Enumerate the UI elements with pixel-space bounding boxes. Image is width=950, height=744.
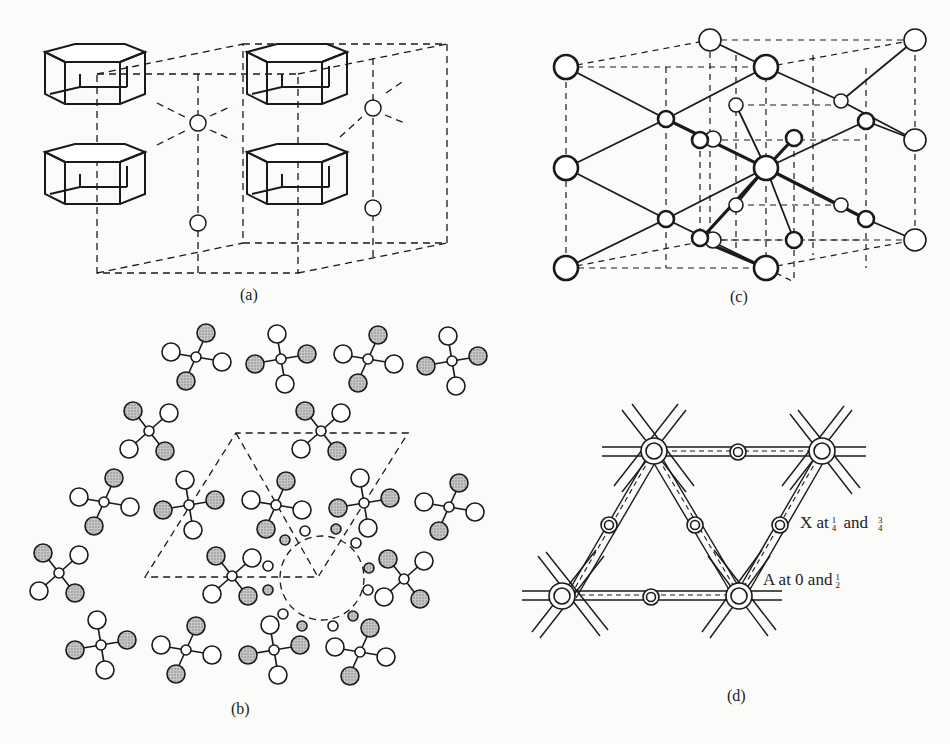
panel-a-label: (a) [240,286,258,304]
a-annotation-prefix: A at 0 and [763,570,832,589]
x-position-annotation: X at14 and34 [800,513,886,533]
x-annotation-and: and [844,513,869,532]
unit-cell-dashed-c [566,40,915,282]
panel-a-diagram [45,44,447,273]
panel-b-label: (b) [231,700,250,718]
x-annotation-prefix: X at [800,513,829,532]
x-nodes [601,444,788,605]
panel-c-diagram [554,29,926,282]
panel-d-label: (d) [727,687,746,705]
figure-canvas [0,0,950,744]
panel-c-label: (c) [730,288,748,306]
atoms-a [190,100,381,231]
fraction-one-half: 12 [835,573,840,589]
panel-b-diagram [30,324,487,685]
fraction-one-quarter: 14 [832,516,837,532]
molecules-tetrahedral [30,324,487,685]
fraction-three-quarters: 34 [878,516,883,532]
a-position-annotation: A at 0 and12 [763,570,843,590]
